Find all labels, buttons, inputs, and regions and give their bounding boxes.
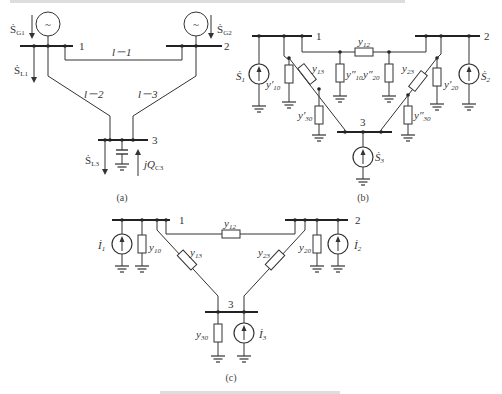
line-l2-label: l－2 [84,88,104,100]
y10pp-label: y″10 [345,68,363,82]
source-i2-icon [328,234,348,254]
caption-c: (c) [225,372,236,384]
resistor-y30 [214,324,222,342]
c-y23-label: y23 [257,246,270,260]
bus-c1-label: 1 [179,214,185,226]
generator-g1-icon: ~ [36,12,60,46]
svg-text:~: ~ [45,18,51,30]
sg2-label: ṠG2 [217,23,232,37]
bus-b3-label: 3 [360,116,366,128]
bus-c3-label: 3 [228,298,234,310]
bus-c2-label: 2 [355,214,361,226]
sl1-label: ṠL1 [14,64,28,78]
resistor-y10pp [336,64,344,82]
y30p-label: y′30 [297,109,313,123]
jqc3-label: jQC3 [142,158,164,172]
caption-b: (b) [357,192,369,204]
i3-label: İ3 [258,328,267,342]
s3-label: Ṡ3 [375,151,385,165]
svg-text:~: ~ [193,18,199,30]
y12-label: y12 [357,35,370,49]
line-l1-label: l－1 [112,46,132,58]
resistor-y10p [285,65,293,83]
line-l3-label: l－3 [138,88,158,100]
bus-2-label: 2 [224,40,230,52]
s2-label: Ṡ2 [481,70,491,84]
y20p-label: y′20 [443,78,459,92]
sg1-label: ṠG1 [10,23,25,37]
y30-label: y30 [195,328,208,342]
power-network-diagrams: ~ ~ ṠG1 ṠG2 1 ṠL1 2 l－1 l－2 l－3 [0,0,502,394]
i2-label: İ2 [353,239,362,253]
resistor-y30pp [404,106,412,124]
y10p-label: y′10 [265,78,281,92]
source-i1-icon [112,234,132,254]
source-s2-icon [459,64,479,84]
diagram-b: 1 Ṡ1 y′10 y13 y′30 y12 [236,30,491,204]
c-y12-label: y12 [223,217,236,231]
bus-b1-label: 1 [316,30,322,42]
faint-header-text [10,0,405,3]
bus-b2-label: 2 [484,30,490,42]
resistor-y30p [315,106,323,124]
c-y13-label: y13 [189,246,202,260]
y23-label: y23 [401,62,414,76]
y10-label: y10 [148,241,161,255]
source-s3-icon [353,147,373,167]
y13-label: y13 [311,62,324,76]
diagram-c: 1 İ1 y10 y13 y12 2 y23 y20 [97,214,362,384]
capacitor-icon [115,140,129,170]
y20-label: y20 [298,241,311,255]
resistor-y20p [433,68,441,86]
i1-label: İ1 [97,239,105,253]
generator-g2-icon: ~ [184,12,208,46]
y30pp-label: y″30 [413,109,431,123]
resistor-y12 [355,48,373,56]
diagram-a: ~ ~ ṠG1 ṠG2 1 ṠL1 2 l－1 l－2 l－3 [10,12,232,204]
source-i3-icon [234,323,254,343]
bus-3-label: 3 [152,134,158,146]
s1-label: Ṡ1 [236,70,245,84]
bus-1-label: 1 [79,40,85,52]
resistor-y20pp [385,64,393,82]
y20pp-label: y″20 [362,68,380,82]
sl3-label: ṠL3 [85,154,99,168]
resistor-y20 [313,235,321,253]
resistor-c12 [222,230,240,238]
resistor-y10 [138,235,146,253]
caption-a: (a) [116,192,127,204]
